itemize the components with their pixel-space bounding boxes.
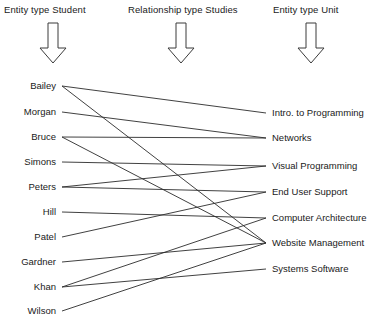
edge-patel-to-enduser: [62, 192, 266, 237]
edge-bruce-to-website: [62, 137, 266, 243]
unit-label-comparch: Computer Architecture: [272, 212, 367, 223]
edge-peters-to-enduser: [62, 187, 266, 192]
edge-hill-to-comparch: [62, 212, 266, 218]
edge-bailey-to-intro: [62, 86, 266, 113]
student-label-wilson: Wilson: [27, 305, 56, 316]
student-label-gardner: Gardner: [21, 256, 56, 267]
unit-label-website: Website Management: [272, 237, 364, 248]
edge-peters-to-visualprog: [62, 166, 266, 187]
edge-simons-to-visualprog: [62, 162, 266, 166]
unit-label-intro: Intro. to Programming: [272, 107, 364, 118]
student-label-morgan: Morgan: [24, 106, 56, 117]
student-label-bruce: Bruce: [31, 131, 56, 142]
edge-bruce-to-networks: [62, 137, 266, 138]
er-instance-diagram: Entity type Student Relationship type St…: [0, 0, 376, 321]
unit-label-enduser: End User Support: [272, 186, 348, 197]
student-label-peters: Peters: [29, 181, 56, 192]
unit-label-visualprog: Visual Programming: [272, 160, 357, 171]
student-label-hill: Hill: [43, 206, 56, 217]
edge-bailey-to-website: [62, 86, 266, 243]
unit-label-networks: Networks: [272, 132, 312, 143]
student-label-khan: Khan: [34, 281, 56, 292]
student-label-bailey: Bailey: [30, 80, 56, 91]
student-label-simons: Simons: [24, 156, 56, 167]
unit-label-syssoftware: Systems Software: [272, 263, 349, 274]
edge-khan-to-syssoftware: [62, 269, 266, 287]
edge-morgan-to-networks: [62, 112, 266, 138]
student-label-patel: Patel: [34, 231, 56, 242]
